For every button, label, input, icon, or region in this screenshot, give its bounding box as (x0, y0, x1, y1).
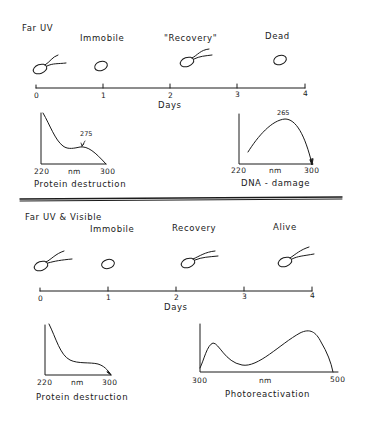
cell-recovery-icon (179, 49, 212, 69)
x-max-label: 500 (330, 376, 345, 384)
chart-caption-protein-destruction: Protein destruction (34, 180, 126, 189)
section-separator (20, 197, 342, 201)
cell-flagellated-icon (33, 251, 72, 273)
timeline-axis-label: Days (158, 101, 182, 110)
tick-label-3: 3 (235, 91, 240, 99)
tick-label-3: 3 (242, 293, 247, 301)
x-min-label: 300 (192, 377, 207, 385)
peak-annotation-265: 265 (277, 110, 289, 117)
x-min-label: 220 (34, 168, 49, 176)
tick-label-2: 2 (174, 294, 179, 302)
cell-immobile-icon (93, 60, 108, 73)
x-unit-label: nm (259, 377, 272, 385)
stage-label-recovery: "Recovery" (164, 34, 217, 43)
cell-flagellated-icon (32, 55, 66, 76)
cell-immobile-icon (101, 258, 116, 270)
x-min-label: 220 (231, 167, 246, 175)
x-unit-label: nm (269, 167, 282, 175)
panel-title: Far UV & Visible (25, 213, 102, 222)
x-unit-label: nm (68, 168, 81, 176)
peak-annotation-275: 275 (80, 131, 92, 138)
x-max-label: 300 (102, 379, 117, 387)
tick-label-0: 0 (34, 92, 39, 100)
x-max-label: 300 (304, 167, 319, 175)
cell-recovery-icon (180, 251, 218, 270)
x-max-label: 300 (100, 168, 115, 176)
dna-damage-chart (239, 114, 313, 165)
stage-label-immobile: Immobile (90, 225, 134, 234)
stage-label-immobile: Immobile (80, 34, 124, 43)
timeline-axis-top (36, 84, 305, 88)
stage-label-alive: Alive (273, 223, 297, 232)
tick-label-4: 4 (310, 292, 315, 300)
timeline-axis-bottom (40, 287, 312, 291)
stage-label-dead: Dead (265, 32, 290, 41)
x-min-label: 220 (37, 379, 52, 387)
panel-title: Far UV (22, 24, 53, 33)
protein-destruction-chart-top (41, 113, 106, 164)
tick-label-1: 1 (106, 294, 111, 302)
tick-label-2: 2 (168, 92, 173, 100)
cell-dead-icon (272, 54, 287, 67)
stage-label-recovery: Recovery (172, 224, 216, 233)
protein-destruction-chart-bottom (45, 324, 111, 375)
chart-caption-photoreactivation: Photoreactivation (225, 390, 310, 399)
chart-caption-dna-damage: DNA - damage (241, 179, 310, 188)
tick-label-1: 1 (101, 92, 106, 100)
timeline-axis-label: Days (164, 303, 188, 312)
cell-alive-icon (277, 247, 314, 269)
tick-label-4: 4 (303, 90, 308, 98)
chart-caption-protein-destruction: Protein destruction (36, 393, 128, 402)
x-unit-label: nm (71, 379, 84, 387)
tick-label-0: 0 (38, 295, 43, 303)
photoreactivation-chart (200, 324, 338, 372)
